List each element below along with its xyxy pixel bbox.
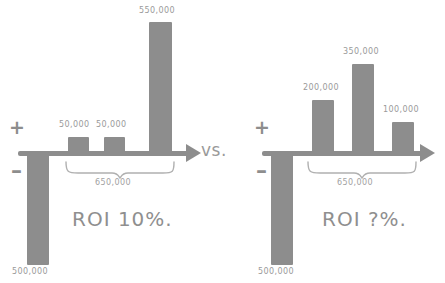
- right-bracket-total: 650,000: [337, 178, 373, 187]
- left-label-return-2: 50,000: [96, 120, 126, 129]
- versus-label: vs.: [201, 140, 227, 160]
- left-axis-minus-sign: –: [11, 160, 22, 182]
- right-axis-arrow-icon: [420, 144, 435, 162]
- left-bar-return-1: [68, 137, 89, 152]
- right-label-return-3: 100,000: [383, 105, 419, 114]
- right-roi-annotation: ROI ?%.: [322, 207, 407, 231]
- left-bar-return-3: [149, 22, 172, 152]
- right-label-investment: 500,000: [258, 267, 294, 276]
- left-axis-plus-sign: +: [9, 118, 25, 137]
- comparison-figure: + – 500,000 50,000 50,000 550,000 650,00…: [0, 0, 445, 283]
- left-bar-investment: [27, 155, 49, 265]
- right-bar-investment: [271, 155, 293, 265]
- left-label-return-1: 50,000: [59, 120, 89, 129]
- left-bar-return-2: [104, 137, 125, 152]
- left-roi-annotation: ROI 10%.: [72, 207, 173, 231]
- right-label-return-2: 350,000: [343, 47, 379, 56]
- left-label-return-3: 550,000: [139, 6, 175, 15]
- left-label-investment: 500,000: [12, 267, 48, 276]
- right-bar-return-3: [392, 122, 414, 152]
- left-axis-arrow-icon: [186, 144, 201, 162]
- right-bar-return-2: [352, 64, 374, 152]
- right-axis-minus-sign: –: [256, 160, 267, 182]
- right-axis-plus-sign: +: [254, 118, 270, 137]
- right-bar-return-1: [312, 100, 334, 152]
- right-label-return-1: 200,000: [303, 83, 339, 92]
- left-bracket-total: 650,000: [95, 178, 131, 187]
- left-bracket-icon: [64, 160, 176, 180]
- right-bracket-icon: [306, 160, 418, 180]
